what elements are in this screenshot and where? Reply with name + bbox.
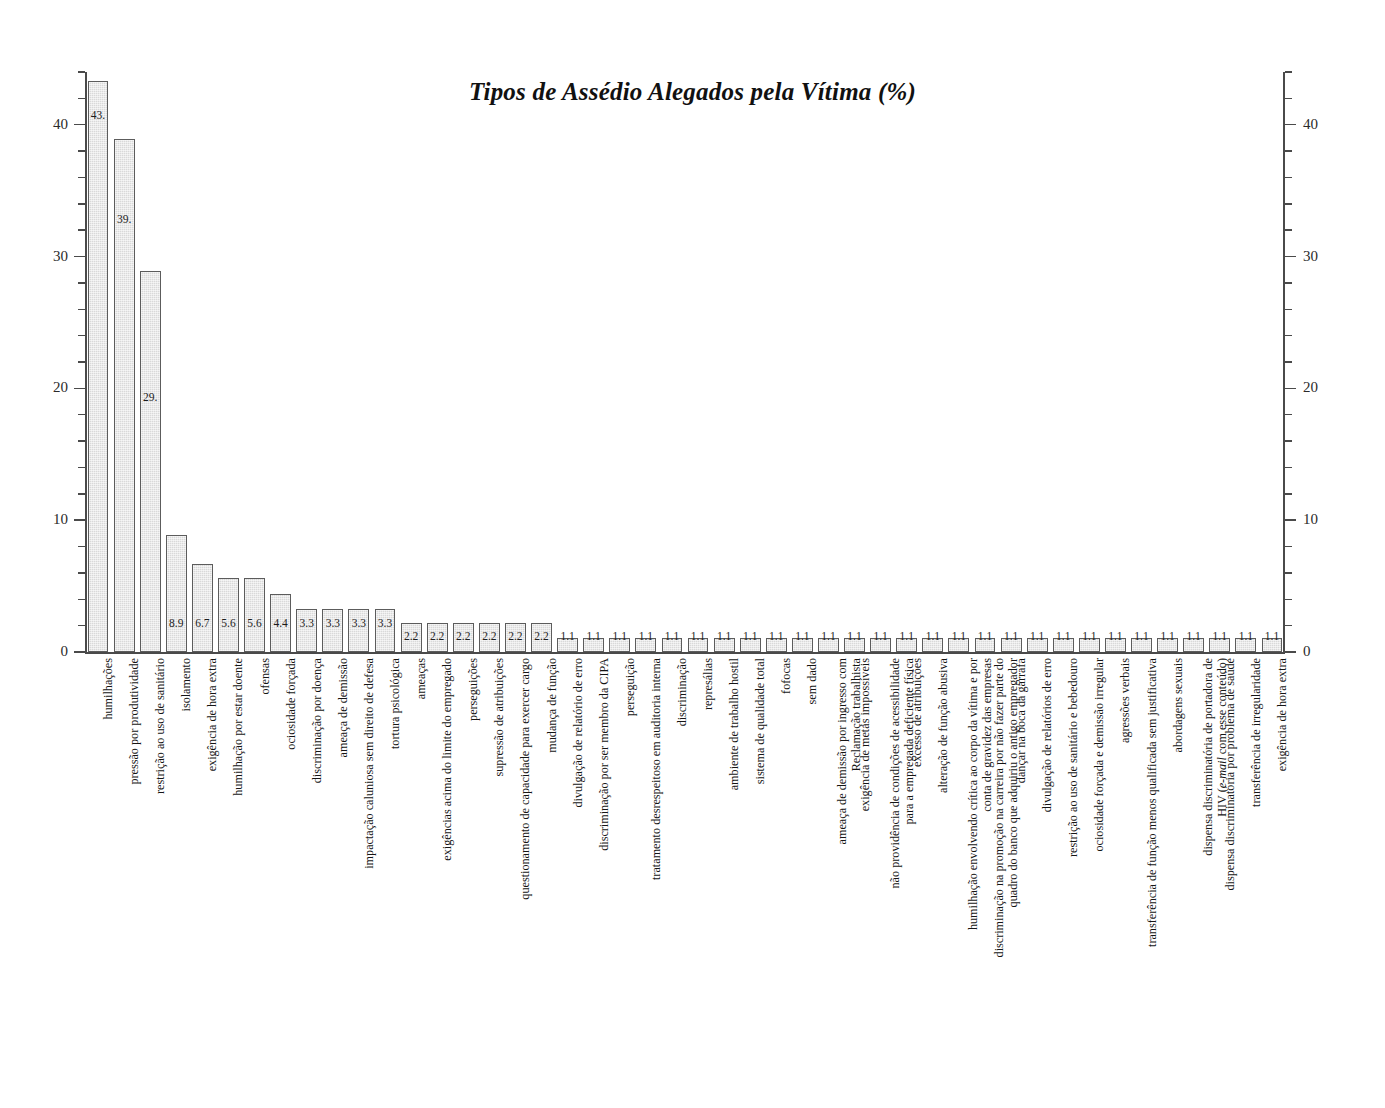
x-axis-label: tortura psicológica xyxy=(389,658,403,749)
y-tick-left-20 xyxy=(74,388,85,389)
x-axis-label: represálias xyxy=(702,658,716,710)
y-tick-label-left-10: 10 xyxy=(53,512,68,527)
bar xyxy=(792,638,813,653)
bar xyxy=(505,623,526,652)
x-axis-label: humilhações xyxy=(102,658,116,720)
bar xyxy=(1079,638,1100,653)
y-tick-left-6 xyxy=(78,572,85,573)
y-tick-left-38 xyxy=(78,150,85,151)
x-axis-label: ofensas xyxy=(259,658,273,695)
x-axis-category-labels: humilhaçõespressão por produtividaderest… xyxy=(85,658,1285,1098)
y-tick-right-42 xyxy=(1285,98,1292,99)
y-tick-right-12 xyxy=(1285,493,1292,494)
bar xyxy=(1105,638,1126,653)
bar xyxy=(609,638,630,653)
plot-area: 010203040 010203040 43.39.29.8.96.75.65.… xyxy=(85,72,1285,652)
bar xyxy=(1027,638,1048,653)
y-tick-right-28 xyxy=(1285,282,1292,283)
x-axis-label: alteração de função abusiva xyxy=(937,658,951,793)
bar xyxy=(244,578,265,652)
y-tick-label-right-0: 0 xyxy=(1303,644,1311,659)
y-tick-right-16 xyxy=(1285,440,1292,441)
y-tick-right-34 xyxy=(1285,203,1292,204)
bar xyxy=(844,638,865,653)
y-tick-left-2 xyxy=(78,625,85,626)
bar xyxy=(975,638,996,653)
y-tick-left-12 xyxy=(78,493,85,494)
x-axis-label: dançar na boca da garrafa xyxy=(1015,658,1029,783)
x-axis-label: restrição ao uso de sanitário e bebedour… xyxy=(1067,658,1081,857)
x-axis-label: agressões verbais xyxy=(1119,658,1133,743)
bar xyxy=(166,535,187,652)
bar xyxy=(1183,638,1204,653)
x-axis-label: divulgação de relatório de erro xyxy=(572,658,586,808)
chart-figure: Tipos de Assédio Alegados pela Vítima (%… xyxy=(0,0,1385,1108)
bar xyxy=(557,638,578,653)
x-axis-label: sem dado xyxy=(806,658,820,704)
bar xyxy=(401,623,422,652)
bar xyxy=(1235,638,1256,653)
x-axis-label: ameaças xyxy=(415,658,429,699)
x-axis-label: exigência de hora extra xyxy=(206,658,220,771)
x-axis-label: tratamento desrespeitoso em auditoria in… xyxy=(650,658,664,880)
bar xyxy=(1209,638,1230,653)
bar xyxy=(531,623,552,652)
bar xyxy=(1262,638,1283,653)
y-tick-right-14 xyxy=(1285,467,1292,468)
y-tick-right-2 xyxy=(1285,625,1292,626)
x-axis-label: abordagens sexuais xyxy=(1172,658,1186,752)
bar xyxy=(270,594,291,652)
y-tick-left-40 xyxy=(74,124,85,125)
bar xyxy=(453,623,474,652)
x-axis-label: pressão por produtividade xyxy=(128,658,142,785)
y-tick-left-44 xyxy=(78,71,85,72)
bar xyxy=(1131,638,1152,653)
y-tick-left-26 xyxy=(78,309,85,310)
x-axis-label: ociosidade forçada xyxy=(285,658,299,750)
bar xyxy=(1053,638,1074,653)
x-axis-label: humilhação por estar doente xyxy=(232,658,246,796)
y-tick-left-0 xyxy=(74,651,85,652)
bar xyxy=(766,638,787,653)
y-tick-right-36 xyxy=(1285,177,1292,178)
bar xyxy=(870,638,891,653)
x-axis-label: excesso de atribuições xyxy=(911,658,925,767)
bar xyxy=(583,638,604,653)
bar xyxy=(192,564,213,652)
x-axis-label: ambiente de trabalho hostil xyxy=(728,658,742,790)
x-axis-label: discriminação xyxy=(676,658,690,726)
y-tick-left-22 xyxy=(78,361,85,362)
y-tick-right-10 xyxy=(1285,519,1296,520)
y-tick-right-8 xyxy=(1285,546,1292,547)
y-tick-right-6 xyxy=(1285,572,1292,573)
bar xyxy=(740,638,761,653)
bar xyxy=(88,81,109,652)
x-axis-label: perseguições xyxy=(467,658,481,721)
x-axis-label: transferência de irregularidade xyxy=(1250,658,1264,807)
x-axis-label: discriminação por ser membro da CIPA xyxy=(598,658,612,851)
y-tick-left-18 xyxy=(78,414,85,415)
bar xyxy=(662,638,683,653)
x-axis-label: exigência de metas impossíveis xyxy=(859,658,873,811)
y-tick-right-32 xyxy=(1285,229,1292,230)
bar xyxy=(714,638,735,653)
y-tick-right-24 xyxy=(1285,335,1292,336)
bar xyxy=(375,609,396,653)
x-axis-label: discriminação por doença xyxy=(311,658,325,783)
bar xyxy=(348,609,369,653)
y-tick-right-30 xyxy=(1285,256,1296,257)
x-axis-label: exigência de hora extra xyxy=(1276,658,1290,771)
y-tick-right-44 xyxy=(1285,71,1292,72)
bar xyxy=(635,638,656,653)
y-tick-left-42 xyxy=(78,98,85,99)
x-axis-label: dispensa discriminatória por problema de… xyxy=(1224,658,1238,891)
y-tick-left-24 xyxy=(78,335,85,336)
y-tick-right-22 xyxy=(1285,361,1292,362)
x-axis-label: perseguição xyxy=(624,658,638,716)
y-tick-right-20 xyxy=(1285,388,1296,389)
bar xyxy=(140,271,161,652)
x-axis-label: ociosidade forçada e demissão irregular xyxy=(1093,658,1107,852)
y-tick-right-18 xyxy=(1285,414,1292,415)
x-axis xyxy=(85,652,1285,654)
x-axis-label: isolamento xyxy=(180,658,194,711)
